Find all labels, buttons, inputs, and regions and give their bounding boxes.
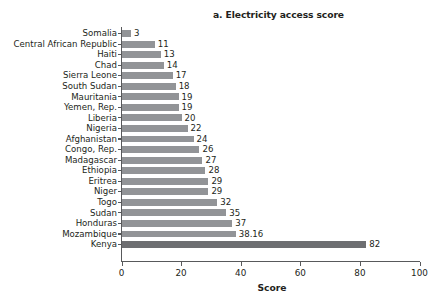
- x-axis-line: [121, 261, 420, 262]
- y-axis-tick: [118, 149, 122, 150]
- bar-row: Yemen, Rep.19: [0, 102, 440, 113]
- category-label: Sierra Leone: [63, 70, 117, 81]
- bar-value-label: 22: [191, 123, 202, 134]
- bar-row: Liberia20: [0, 113, 440, 124]
- bar-value-label: 17: [176, 70, 187, 81]
- bar-value-label: 28: [208, 165, 219, 176]
- y-axis-tick: [118, 96, 122, 97]
- y-axis-tick: [118, 212, 122, 213]
- category-label: Mozambique: [62, 229, 117, 240]
- bar: [122, 114, 182, 121]
- bar: [122, 220, 232, 227]
- category-label: Honduras: [76, 218, 117, 229]
- x-axis-title-label: Score: [257, 282, 286, 293]
- bar-row: Ethiopia28: [0, 165, 440, 176]
- y-axis-tick: [118, 86, 122, 87]
- bar-row: Sierra Leone17: [0, 70, 440, 81]
- x-axis-tick: [181, 262, 182, 266]
- category-label: Congo, Rep.: [65, 144, 117, 155]
- y-axis-tick: [118, 160, 122, 161]
- bar-value-label: 11: [158, 39, 169, 50]
- y-axis-tick: [118, 244, 122, 245]
- bar-row: Central African Republic11: [0, 39, 440, 50]
- y-axis-tick: [118, 33, 122, 34]
- bar-value-label: 37: [235, 218, 246, 229]
- category-label: Nigeria: [86, 123, 117, 134]
- bar-value-label: 27: [205, 155, 216, 166]
- x-axis-tick-label: 80: [354, 267, 365, 279]
- bar-row: Mauritania19: [0, 92, 440, 103]
- category-label: South Sudan: [62, 81, 117, 92]
- y-axis-tick: [118, 202, 122, 203]
- y-axis-tick: [118, 191, 122, 192]
- x-axis-tick: [420, 262, 421, 266]
- bar-row: Honduras37: [0, 218, 440, 229]
- category-label: Central African Republic: [14, 39, 117, 50]
- category-label: Eritrea: [88, 176, 117, 187]
- category-label: Yemen, Rep.: [64, 102, 117, 113]
- bar-value-label: 82: [369, 239, 380, 250]
- x-axis-tick-label: 100: [411, 267, 428, 279]
- y-axis-tick: [118, 128, 122, 129]
- x-axis-tick: [360, 262, 361, 266]
- category-label: Togo: [97, 197, 117, 208]
- bar-row: Togo32: [0, 197, 440, 208]
- bar-value-label: 38.16: [239, 229, 264, 240]
- bar: [122, 231, 236, 238]
- bar: [122, 62, 164, 69]
- y-axis-tick: [118, 75, 122, 76]
- bar: [122, 167, 205, 174]
- bar-row: Haiti13: [0, 49, 440, 60]
- bar-row: Mozambique38.16: [0, 229, 440, 240]
- bar: [122, 51, 161, 58]
- bar-value-label: 35: [229, 208, 240, 219]
- x-axis-tick-label: 0: [119, 267, 125, 279]
- category-label: Kenya: [91, 239, 117, 250]
- bar-value-label: 32: [220, 197, 231, 208]
- bar-row: Kenya82: [0, 239, 440, 250]
- x-axis-tick-label: 20: [175, 267, 186, 279]
- plot-area: Somalia3Central African Republic11Haiti1…: [0, 0, 440, 302]
- bar-row: Somalia3: [0, 28, 440, 39]
- category-label: Somalia: [83, 28, 117, 39]
- category-label: Liberia: [88, 113, 117, 124]
- bar-value-label: 3: [134, 28, 139, 39]
- bar: [122, 157, 202, 164]
- bar-row: Nigeria22: [0, 123, 440, 134]
- x-axis-tick-label: 60: [295, 267, 306, 279]
- electricity-access-score-chart: a. Electricity access score Somalia3Cent…: [0, 0, 440, 302]
- category-label: Ethiopia: [82, 165, 117, 176]
- bar-value-label: 19: [182, 102, 193, 113]
- bar: [122, 146, 199, 153]
- y-axis-tick: [118, 54, 122, 55]
- bar: [122, 104, 179, 111]
- bar: [122, 188, 208, 195]
- y-axis-tick: [118, 233, 122, 234]
- bar-value-label: 18: [179, 81, 190, 92]
- category-label: Niger: [94, 186, 117, 197]
- bar-value-label: 13: [164, 49, 175, 60]
- bar: [122, 125, 188, 132]
- category-label: Afghanistan: [66, 134, 117, 145]
- y-axis-tick: [118, 138, 122, 139]
- bar-value-label: 29: [211, 186, 222, 197]
- bar: [122, 199, 217, 206]
- bar: [122, 41, 155, 48]
- bar-value-label: 20: [185, 113, 196, 124]
- bar-row: South Sudan18: [0, 81, 440, 92]
- category-label: Haiti: [97, 49, 117, 60]
- y-axis-tick: [118, 170, 122, 171]
- y-axis-tick: [118, 117, 122, 118]
- bar: [122, 209, 226, 216]
- bar-row: Chad14: [0, 60, 440, 71]
- bar-row: Sudan35: [0, 208, 440, 219]
- bar: [122, 72, 173, 79]
- x-axis-tick: [300, 262, 301, 266]
- x-axis-tick: [122, 262, 123, 266]
- x-axis-tick: [241, 262, 242, 266]
- category-label: Chad: [95, 60, 117, 71]
- y-axis-tick: [118, 223, 122, 224]
- bar-row: Niger29: [0, 186, 440, 197]
- category-label: Madagascar: [65, 155, 117, 166]
- bar: [122, 83, 176, 90]
